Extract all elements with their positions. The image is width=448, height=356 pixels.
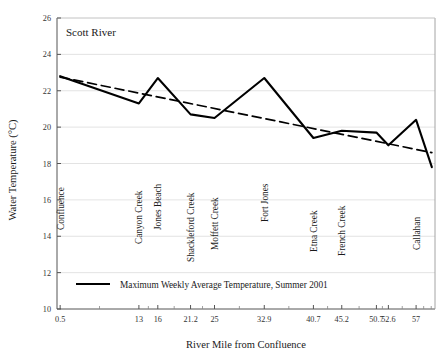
data-point-label: Jones Beach: [153, 183, 163, 230]
y-tick-label: 10: [43, 305, 51, 314]
line-chart: 101214161820222426 0.5131621.22532.940.7…: [0, 0, 448, 356]
data-point-label: Callahan: [412, 217, 422, 250]
data-point-label: French Creek: [337, 205, 347, 256]
plot-title: Scott River: [66, 26, 116, 38]
y-tick-label: 16: [43, 196, 51, 205]
chart-figure: 101214161820222426 0.5131621.22532.940.7…: [0, 0, 448, 356]
y-tick-label: 12: [43, 269, 51, 278]
x-tick-label: 45.2: [335, 315, 349, 324]
x-tick-label: 16: [154, 315, 162, 324]
x-tick-label: 13: [135, 315, 143, 324]
data-point-label: Moffett Creek: [210, 197, 220, 250]
data-point-label: Etna Creek: [309, 210, 319, 252]
y-tick-label: 14: [43, 232, 51, 241]
x-tick-label: 21.2: [183, 315, 197, 324]
y-tick-label: 26: [43, 14, 51, 23]
legend-label: Maximum Weekly Average Temperature, Summ…: [120, 280, 328, 290]
y-tick-label: 20: [43, 123, 51, 132]
x-tick-label: 57: [412, 315, 420, 324]
y-axis-tick-labels: 101214161820222426: [43, 14, 51, 314]
y-tick-label: 18: [43, 160, 51, 169]
x-tick-label: 52.6: [381, 315, 395, 324]
data-point-label: Shackleford Creek: [186, 192, 196, 262]
y-tick-label: 22: [43, 87, 51, 96]
chart-background: [0, 0, 448, 356]
x-tick-label: 0.5: [55, 315, 65, 324]
data-point-label: Canyon Creek: [134, 190, 144, 244]
data-point-label: Confluence: [56, 187, 66, 230]
x-tick-label: 25: [210, 315, 218, 324]
y-axis-title: Water Temperature (°C): [7, 119, 19, 220]
x-tick-label: 32.9: [257, 315, 271, 324]
x-axis-title: River Mile from Confluence: [186, 339, 306, 350]
y-tick-label: 24: [43, 50, 51, 59]
x-tick-label: 40.7: [306, 315, 320, 324]
data-point-label: Fort Jones: [260, 183, 270, 222]
